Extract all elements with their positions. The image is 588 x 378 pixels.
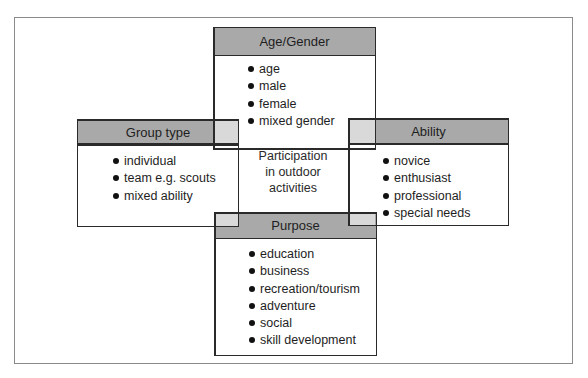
age-gender-header: Age/Gender: [214, 28, 375, 56]
list-item: male: [248, 78, 335, 95]
bullet-icon: [249, 251, 255, 257]
bullet-icon: [249, 268, 255, 274]
list-item: female: [248, 96, 335, 113]
edge-line: [376, 212, 378, 356]
edge-line: [77, 143, 239, 145]
list-item: enthusiast: [383, 170, 470, 187]
center-label: Participation in outdoor activities: [238, 148, 348, 196]
list-item: team e.g. scouts: [113, 170, 216, 187]
bullet-icon: [249, 320, 255, 326]
list-item: individual: [113, 153, 216, 170]
overlap-top-left: [215, 121, 238, 144]
edge-line: [375, 27, 377, 150]
list-item: age: [248, 61, 335, 78]
list-item: novice: [383, 153, 470, 170]
bullet-icon: [249, 337, 255, 343]
list-item: recreation/tourism: [249, 281, 360, 298]
list-item: adventure: [249, 298, 360, 315]
group-type-list: individual team e.g. scouts mixed abilit…: [113, 153, 216, 205]
bullet-icon: [113, 175, 119, 181]
bullet-icon: [249, 303, 255, 309]
edge-line: [214, 212, 377, 214]
bullet-icon: [383, 158, 389, 164]
bullet-icon: [113, 193, 119, 199]
overlap-top-right: [350, 120, 375, 144]
bullet-icon: [248, 118, 254, 124]
edge-line: [348, 225, 509, 227]
list-item: education: [249, 246, 360, 263]
edge-line: [348, 143, 509, 145]
purpose-box: Purpose education business recreation/to…: [214, 212, 377, 356]
ability-list: novice enthusiast professional special n…: [383, 153, 470, 222]
bullet-icon: [113, 158, 119, 164]
list-item: business: [249, 263, 360, 280]
list-item: skill development: [249, 332, 360, 349]
bullet-icon: [383, 175, 389, 181]
bullet-icon: [383, 193, 389, 199]
edge-line: [214, 212, 216, 356]
list-item: professional: [383, 188, 470, 205]
edge-line: [77, 226, 239, 228]
bullet-icon: [248, 101, 254, 107]
list-item: special needs: [383, 205, 470, 222]
age-gender-list: age male female mixed gender: [248, 61, 335, 130]
bullet-icon: [248, 83, 254, 89]
list-item: mixed gender: [248, 113, 335, 130]
purpose-list: education business recreation/tourism ad…: [249, 246, 360, 350]
list-item: mixed ability: [113, 188, 216, 205]
overlap-bottom-right: [350, 214, 375, 225]
edge-line: [77, 119, 239, 121]
edge-line: [348, 118, 509, 120]
edge-line: [348, 118, 350, 226]
list-item: social: [249, 315, 360, 332]
bullet-icon: [249, 286, 255, 292]
bullet-icon: [383, 210, 389, 216]
bullet-icon: [248, 66, 254, 72]
overlap-bottom-left: [216, 214, 238, 226]
edge-line: [213, 27, 215, 150]
